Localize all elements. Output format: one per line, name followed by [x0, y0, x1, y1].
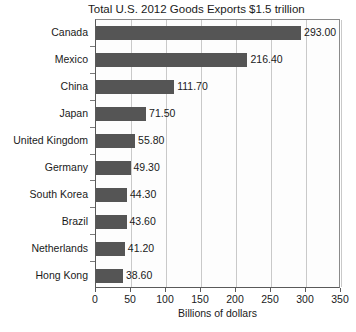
y-axis-tick [90, 234, 95, 235]
bar[interactable] [96, 161, 131, 175]
category-label: Japan [0, 106, 88, 120]
bar[interactable] [96, 269, 123, 283]
y-axis-tick [90, 46, 95, 47]
y-axis-category-labels: CanadaMexicoChinaJapanUnited KingdomGerm… [0, 19, 88, 288]
bar-value-label: 44.30 [127, 187, 156, 202]
bar-row[interactable]: 55.80 [96, 134, 341, 148]
bar-row[interactable]: 111.70 [96, 80, 341, 94]
x-axis-tick-label: 200 [226, 293, 244, 306]
y-axis-tick [90, 100, 95, 101]
bar-row[interactable]: 216.40 [96, 53, 341, 67]
x-axis-tick-label: 350 [331, 293, 349, 306]
category-label: Germany [0, 160, 88, 174]
x-axis-tick [235, 288, 236, 292]
y-axis-tick [90, 261, 95, 262]
bar-value-label: 38.60 [123, 268, 152, 283]
bar-value-label: 55.80 [135, 133, 164, 148]
category-label: Canada [0, 25, 88, 39]
x-axis-tick-label: 0 [92, 293, 98, 306]
category-label: United Kingdom [0, 133, 88, 147]
bar-value-label: 43.60 [127, 214, 156, 229]
bar-row[interactable]: 38.60 [96, 269, 341, 283]
x-axis-tick-label: 300 [296, 293, 314, 306]
bar-row[interactable]: 43.60 [96, 215, 341, 229]
x-axis-tick-label: 100 [156, 293, 174, 306]
bar-value-label: 293.00 [301, 25, 336, 40]
x-axis-tick-label: 50 [124, 293, 136, 306]
bar[interactable] [96, 26, 301, 40]
x-axis-tick [95, 288, 96, 292]
x-axis-tick [200, 288, 201, 292]
bar[interactable] [96, 80, 174, 94]
category-label: Mexico [0, 52, 88, 66]
bar[interactable] [96, 215, 127, 229]
category-label: Netherlands [0, 241, 88, 255]
category-label: Brazil [0, 214, 88, 228]
bar-value-label: 41.20 [125, 241, 154, 256]
bars-layer: 293.00216.40111.7071.5055.8049.3044.3043… [96, 20, 339, 287]
y-axis-tick [90, 180, 95, 181]
bar-value-label: 216.40 [247, 52, 282, 67]
chart-title: Total U.S. 2012 Goods Exports $1.5 trill… [88, 2, 298, 16]
bar[interactable] [96, 134, 135, 148]
bar-row[interactable]: 44.30 [96, 188, 341, 202]
x-axis-tick [340, 288, 341, 292]
x-axis-tick [270, 288, 271, 292]
bar[interactable] [96, 53, 247, 67]
y-axis-tick [90, 127, 95, 128]
category-label: Hong Kong [0, 268, 88, 282]
x-axis-tick [130, 288, 131, 292]
bar[interactable] [96, 188, 127, 202]
y-axis-tick [90, 154, 95, 155]
bar-value-label: 49.30 [131, 160, 160, 175]
bar-row[interactable]: 71.50 [96, 107, 341, 121]
x-axis-tick-label: 150 [191, 293, 209, 306]
bar[interactable] [96, 242, 125, 256]
bar-row[interactable]: 41.20 [96, 242, 341, 256]
plot-area: 293.00216.40111.7071.5055.8049.3044.3043… [95, 19, 340, 288]
category-label: South Korea [0, 187, 88, 201]
x-axis-tick [305, 288, 306, 292]
gridline [341, 20, 342, 287]
x-axis-tick-label: 250 [261, 293, 279, 306]
category-label: China [0, 79, 88, 93]
bar-chart-figure: Total U.S. 2012 Goods Exports $1.5 trill… [0, 0, 356, 332]
bar-row[interactable]: 49.30 [96, 161, 341, 175]
y-axis-tick [90, 73, 95, 74]
bar-value-label: 71.50 [146, 106, 175, 121]
y-axis-tick [90, 207, 95, 208]
bar[interactable] [96, 107, 146, 121]
x-axis: 050100150200250300350 [95, 288, 340, 308]
bar-row[interactable]: 293.00 [96, 26, 341, 40]
x-axis-tick [165, 288, 166, 292]
x-axis-title: Billions of dollars [95, 307, 340, 320]
bar-value-label: 111.70 [174, 79, 208, 94]
